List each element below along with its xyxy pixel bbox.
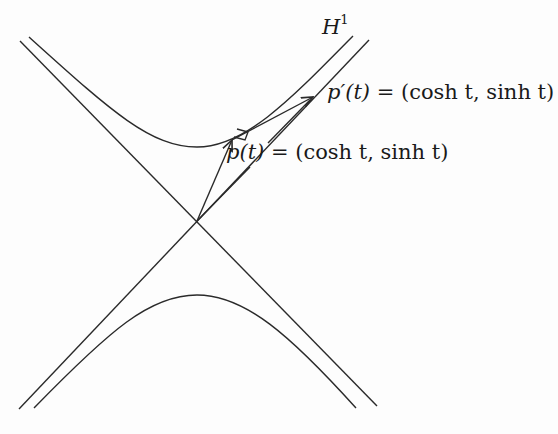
hyperbola-diagram: H1 p′(t) = (cosh t, sinh t) p(t) = (cosh… [0,0,558,434]
diagram-svg [0,0,558,434]
curve-label-h1: H1 [322,14,349,39]
hyperbola-upper-branch [29,36,353,147]
tangent-value: = (cosh t, sinh t) [370,80,554,104]
tangent-vector-arrow [232,97,313,140]
translated-tangent-line-upper [268,100,310,143]
translated-tangent-line-lower [197,167,250,221]
point-label: p(t) = (cosh t, sinh t) [226,140,448,164]
hyperbola-lower-branch [34,295,356,408]
tangent-name: p′(t) [327,80,370,104]
asymptote-line-2 [19,40,369,409]
tangent-vector-label: p′(t) = (cosh t, sinh t) [327,80,554,104]
point-name: p(t) [226,140,264,164]
point-value: = (cosh t, sinh t) [264,140,448,164]
